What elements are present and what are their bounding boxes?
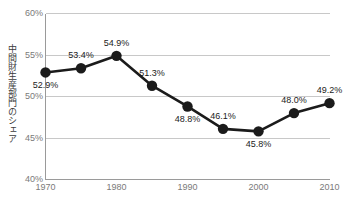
data-point-marker[interactable] — [40, 67, 50, 77]
data-point-marker[interactable] — [253, 126, 263, 136]
data-point-label: 53.4% — [61, 50, 101, 60]
data-point-marker[interactable] — [289, 108, 299, 118]
data-point-label: 46.1% — [203, 111, 243, 121]
data-point-label: 51.3% — [132, 68, 172, 78]
data-point-label: 49.2% — [310, 85, 347, 95]
data-point-marker[interactable] — [324, 98, 334, 108]
data-point-label: 48.8% — [168, 114, 208, 124]
data-point-marker[interactable] — [182, 101, 192, 111]
data-point-label: 52.9% — [26, 80, 66, 90]
data-point-label: 45.8% — [239, 139, 279, 149]
data-point-label: 48.0% — [274, 95, 314, 105]
data-point-marker[interactable] — [76, 63, 86, 73]
data-point-marker[interactable] — [111, 51, 121, 61]
data-point-label: 54.9% — [97, 38, 137, 48]
data-point-marker[interactable] — [218, 124, 228, 134]
data-point-marker[interactable] — [147, 81, 157, 91]
